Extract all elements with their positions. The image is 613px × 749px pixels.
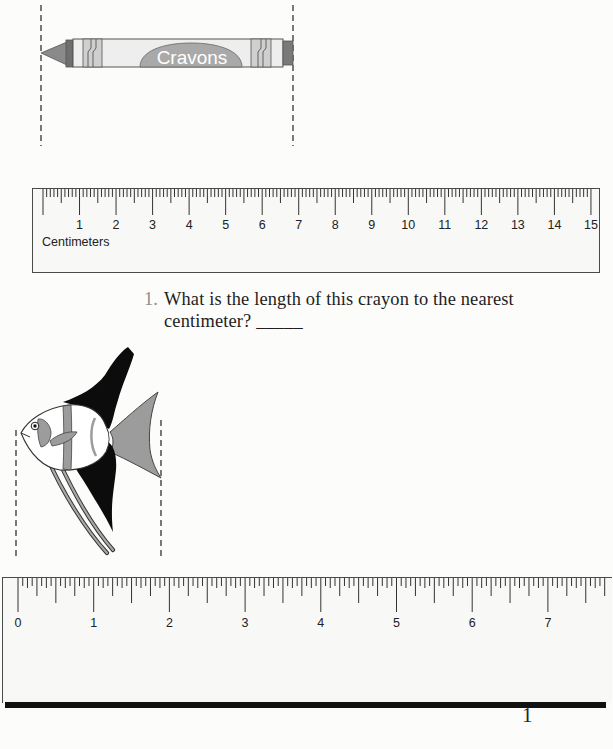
centimeter-tick-label: 10 [401, 219, 415, 232]
centimeter-tick-label: 7 [295, 219, 302, 232]
inch-tick-label: 5 [393, 617, 400, 630]
inch-ruler-bottom-edge [5, 702, 606, 708]
centimeter-tick-label: 3 [149, 219, 156, 232]
centimeter-tick-label: 9 [368, 219, 375, 232]
question-text-line1: What is the length of this crayon to the… [164, 290, 514, 308]
centimeter-tick-label: 1 [76, 219, 83, 232]
inch-tick-label: 2 [166, 617, 173, 630]
centimeter-tick-label: 2 [113, 219, 120, 232]
inch-tick-label: 7 [544, 617, 551, 630]
centimeter-unit-label: Centimeters [42, 236, 109, 249]
crayon-collar [66, 40, 73, 67]
crayon-band-left [83, 39, 102, 67]
inch-tick-label: 1 [90, 617, 97, 630]
question-text-line2-text: centimeter? [164, 311, 251, 331]
question-number: 1. [144, 290, 158, 308]
centimeter-tick-label: 12 [474, 219, 488, 232]
page-number: 1 [522, 705, 533, 726]
crayon-illustration: Cravons [41, 39, 293, 68]
centimeter-ruler: 123456789101112131415 Centimeters [32, 188, 600, 273]
centimeter-tick-label: 5 [222, 219, 229, 232]
crayon-brand-label: Cravons [157, 47, 228, 68]
answer-blank: _____ [256, 311, 303, 331]
angelfish-illustration [21, 347, 161, 553]
inch-tick-label: 3 [242, 617, 249, 630]
centimeter-tick-label: 6 [259, 219, 266, 232]
centimeter-tick-label: 11 [438, 219, 451, 232]
centimeter-tick-label: 4 [186, 219, 193, 232]
centimeter-tick-label: 13 [511, 219, 525, 232]
crayon-tip [41, 42, 67, 65]
centimeter-tick-label: 15 [584, 219, 598, 232]
question-text-line2: centimeter? _____ [164, 312, 303, 330]
inch-ruler-ticks [3, 578, 613, 618]
fish-tail-fin [110, 392, 161, 478]
crayon-end-cap [283, 41, 293, 65]
inch-ruler: 01234567 [2, 577, 612, 703]
inch-tick-label: 0 [15, 617, 22, 630]
inch-tick-label: 4 [317, 617, 324, 630]
centimeter-tick-label: 8 [332, 219, 339, 232]
centimeter-tick-label: 14 [547, 219, 561, 232]
inch-tick-label: 6 [469, 617, 476, 630]
